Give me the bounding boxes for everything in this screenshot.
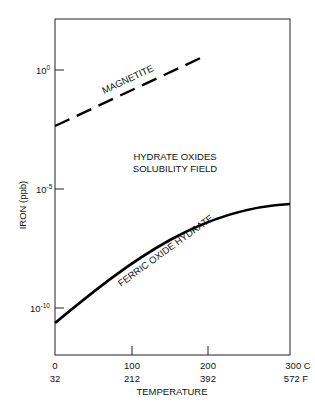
x-axis-label: TEMPERATURE [136,386,207,397]
x-tick-label-c: 200 [200,360,216,371]
chart: 100 10-5 10-10 IRON (ppb) 0 100 200 300 … [0,0,315,411]
y-axis-label: IRON (ppb) [17,181,28,230]
x-tick-label-c: 100 [124,360,140,371]
x-tick-label-c: 0 [52,360,57,371]
field-label-line1: HYDRATE OXIDES [133,151,216,162]
x-tick-label-f: 392 [200,373,216,384]
y-tick-label: 10-5 [36,183,53,195]
y-tick-label: 100 [36,64,51,76]
x-tick-label-c: 300 C [285,360,310,371]
magnetite-line [55,55,207,126]
x-tick-label-f: 572 F [284,373,308,384]
field-label-line2: SOLUBILITY FIELD [133,163,217,174]
ferric-label: FERRIC OXIDE HYDRATE [116,212,215,288]
plot-frame [55,19,290,355]
ferric-oxide-curve [55,204,290,323]
x-tick-label-f: 212 [124,373,140,384]
y-tick-label: 10-10 [30,302,50,314]
x-tick-label-f: 32 [50,373,61,384]
